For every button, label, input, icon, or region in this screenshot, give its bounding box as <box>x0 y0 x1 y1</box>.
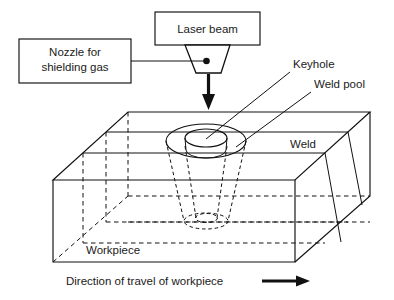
nozzle-callout: Nozzle for shielding gas <box>19 39 131 83</box>
right-arrow-icon <box>262 276 310 287</box>
keyhole-label: Keyhole <box>293 58 335 70</box>
weld-section-far-line <box>348 132 362 205</box>
laser-beam-callout: Laser beam <box>155 12 260 45</box>
down-arrow-icon <box>202 74 215 110</box>
keyhole-root-ellipse <box>196 214 218 223</box>
weld-label: Weld <box>290 138 316 150</box>
nozzle-label-line1: Nozzle for <box>49 46 101 58</box>
workpiece-top-face <box>53 112 370 180</box>
workpiece-label: Workpiece <box>86 244 140 256</box>
weld-pool-keyhole-group <box>166 124 246 229</box>
keyhole-leader-line <box>206 72 290 139</box>
nozzle-assembly <box>131 45 230 73</box>
diagram-canvas: Laser beam Nozzle for shielding gas <box>0 0 394 300</box>
nozzle-label-line2: shielding gas <box>41 61 108 73</box>
connection-dot-icon <box>203 58 210 65</box>
direction-of-travel-callout: Direction of travel of workpiece <box>66 275 310 287</box>
direction-of-travel-label: Direction of travel of workpiece <box>66 275 223 287</box>
weld-pool-root-ellipse <box>184 213 228 229</box>
weld-pool-label: Weld pool <box>314 78 365 90</box>
keyhole-callout: Keyhole <box>206 58 335 139</box>
laser-welding-diagram: Laser beam Nozzle for shielding gas <box>0 0 394 300</box>
laser-beam-label: Laser beam <box>177 23 238 35</box>
